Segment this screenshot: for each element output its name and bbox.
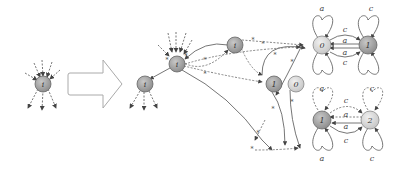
svg-text:c: c <box>343 25 348 34</box>
svg-text:i: i <box>176 60 179 69</box>
diagram-canvas: i <box>0 0 399 172</box>
svg-text:*: * <box>251 36 255 44</box>
left-node-label: i <box>42 80 45 89</box>
svg-text:i: i <box>234 41 237 50</box>
node-0-mid: 0 <box>288 76 304 92</box>
svg-text:*: * <box>203 70 207 78</box>
node-top-0: 0 <box>313 36 331 54</box>
node-bot-1: 1 <box>313 111 331 129</box>
node-i-top: i <box>227 37 243 53</box>
svg-text:*: * <box>250 145 254 153</box>
svg-text:1: 1 <box>271 80 276 89</box>
svg-text:a: a <box>343 48 348 57</box>
svg-text:*: * <box>290 58 294 66</box>
svg-text:i: i <box>144 80 147 89</box>
svg-text:a: a <box>320 4 325 13</box>
svg-text:*: * <box>184 52 188 60</box>
node-i-center: i <box>169 56 185 72</box>
svg-text:*: * <box>271 105 275 113</box>
svg-text:c: c <box>344 96 349 105</box>
svg-text:*: * <box>261 40 265 48</box>
svg-text:c: c <box>343 58 348 67</box>
svg-text:a: a <box>344 122 349 131</box>
svg-text:*: * <box>203 56 207 64</box>
svg-text:a: a <box>343 36 348 45</box>
svg-text:*: * <box>165 56 169 64</box>
top-cluster-labels: a c c a a c <box>320 4 374 67</box>
svg-text:a: a <box>320 154 325 163</box>
transform-arrow-icon <box>68 60 122 108</box>
node-top-1: 1 <box>359 36 377 54</box>
svg-text:*: * <box>273 51 277 59</box>
left-node-group: i <box>25 60 60 110</box>
svg-text:*: * <box>290 98 294 106</box>
node-i-bottom: i <box>137 76 153 92</box>
node-bot-2: 2 <box>361 111 379 129</box>
svg-text:0: 0 <box>319 41 324 50</box>
svg-text:c: c <box>344 136 349 145</box>
svg-text:a: a <box>320 84 325 93</box>
svg-text:0: 0 <box>293 80 298 89</box>
svg-text:*: * <box>256 129 260 137</box>
svg-text:c: c <box>370 154 375 163</box>
svg-text:c: c <box>369 4 374 13</box>
svg-text:a: a <box>344 110 349 119</box>
svg-text:c: c <box>370 84 375 93</box>
svg-text:1: 1 <box>365 41 370 50</box>
expanded-structure: * * * * * * * * * * * * a c c <box>130 4 383 163</box>
svg-text:1: 1 <box>319 116 324 125</box>
node-1-mid: 1 <box>266 76 282 92</box>
svg-text:2: 2 <box>366 116 372 125</box>
